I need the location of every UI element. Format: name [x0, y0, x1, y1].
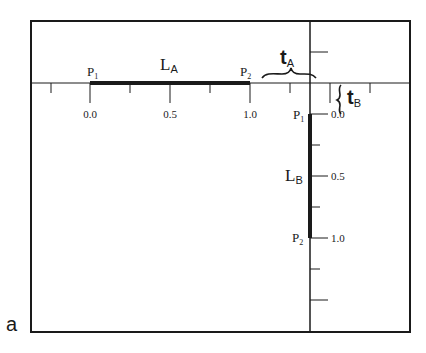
panel-label: a	[6, 313, 18, 335]
h-tick-label-0: 0.0	[83, 108, 97, 120]
ta-brace-icon	[262, 68, 316, 78]
v-p2-label: P2	[292, 230, 303, 247]
horizontal-ticks	[51, 83, 370, 103]
ta-label: tA	[280, 46, 295, 69]
la-label: LA	[160, 55, 178, 75]
v-tick-label-0: 0.0	[331, 108, 345, 120]
h-tick-label-1: 1.0	[243, 108, 257, 120]
h-p1-label: P1	[87, 64, 98, 81]
vertical-ticks	[310, 52, 328, 300]
v-tick-label-0-5: 0.5	[331, 170, 345, 182]
lb-label: LB	[285, 166, 303, 186]
v-tick-label-1: 1.0	[331, 232, 345, 244]
diagram-canvas: 0.0 0.5 1.0 0.0 0.5 1.0 P1 P2 LA tA tB P…	[0, 0, 426, 353]
h-tick-label-0-5: 0.5	[163, 108, 177, 120]
h-p2-label: P2	[240, 64, 251, 81]
v-p1-label: P1	[293, 107, 304, 124]
tb-label: tB	[347, 86, 361, 109]
